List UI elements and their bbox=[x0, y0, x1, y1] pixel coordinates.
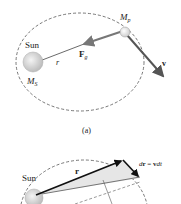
gravity-force-arrow bbox=[84, 31, 123, 44]
planet-icon bbox=[120, 27, 130, 37]
caption-a: (a) bbox=[82, 126, 91, 135]
swept-area bbox=[36, 160, 140, 195]
sun-label: Sun bbox=[25, 40, 40, 50]
velocity-label: v bbox=[162, 59, 166, 68]
radius-vector-label: r bbox=[75, 166, 79, 176]
sun-icon-b bbox=[25, 189, 43, 204]
force-label: Fg bbox=[79, 49, 88, 60]
radius-line bbox=[37, 44, 84, 62]
velocity-arrow bbox=[127, 35, 163, 76]
figure-a: Sun MS Mp r Fg v (a) bbox=[16, 12, 166, 135]
figure-b: Sun r dr = vdt bbox=[20, 160, 163, 204]
radius-label: r bbox=[56, 58, 60, 67]
sun-label-b: Sun bbox=[22, 173, 37, 183]
kepler-diagram: Sun MS Mp r Fg v (a) Sun r dr = vdt bbox=[0, 0, 181, 204]
displacement-label: dr = vdt bbox=[139, 160, 163, 168]
sun-icon bbox=[23, 52, 43, 72]
sun-mass-label: MS bbox=[26, 76, 38, 87]
planet-mass-label: Mp bbox=[119, 12, 131, 23]
